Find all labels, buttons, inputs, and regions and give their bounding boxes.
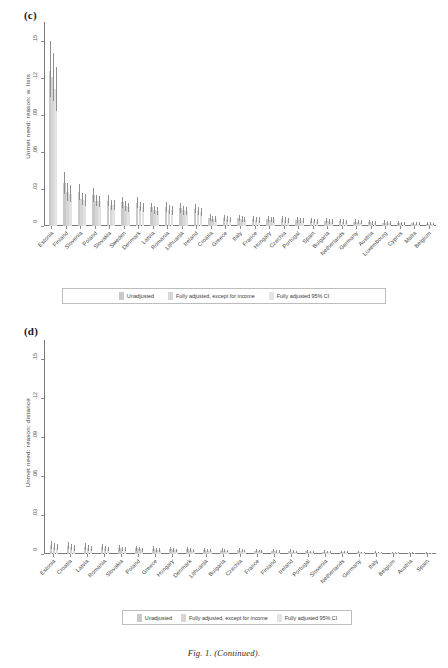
y-tick-label: .09	[32, 109, 38, 117]
x-tick-mark	[182, 226, 183, 229]
bar-group	[368, 22, 377, 226]
bar-group	[281, 22, 290, 226]
bar-group	[324, 22, 333, 226]
y-tick-label: .15	[32, 353, 38, 361]
legend-item-fully-adjusted-ci-d: Fully adjusted 95% CI	[277, 614, 337, 622]
bar-group	[310, 22, 319, 226]
x-axis-label: Finland	[260, 558, 278, 576]
bar-group	[203, 340, 212, 554]
panel-d: (d) Unmet need: reason: distance 0.03.06…	[0, 322, 448, 644]
x-tick-mark	[385, 226, 386, 229]
x-axis-label: Austria	[397, 558, 414, 575]
x-tick-mark	[172, 554, 173, 557]
y-tick-mark	[41, 554, 44, 555]
bar-group	[271, 340, 280, 554]
bar-group	[237, 22, 246, 226]
bar-group	[397, 22, 406, 226]
x-tick-mark	[313, 226, 314, 229]
bar-group	[135, 340, 144, 554]
y-tick-mark	[41, 359, 44, 360]
error-bar	[157, 207, 158, 215]
error-bar	[390, 221, 391, 224]
error-bar	[244, 217, 245, 223]
error-bar	[244, 550, 245, 553]
error-bar	[114, 200, 115, 210]
legend-label-unadjusted-d: Unadjusted	[145, 615, 172, 621]
error-bar	[361, 220, 362, 224]
x-tick-mark	[223, 554, 224, 557]
legend-item-unadjusted: Unadjusted	[119, 292, 154, 300]
x-tick-mark	[196, 226, 197, 229]
y-tick-mark	[41, 189, 44, 190]
error-bar	[143, 203, 144, 212]
error-bar	[57, 544, 58, 550]
error-bar	[259, 217, 260, 222]
bar-group	[194, 22, 203, 226]
error-bar	[79, 184, 80, 200]
y-tick-label: 0	[32, 548, 38, 551]
y-tick-label: 0	[32, 220, 38, 223]
bar-group	[220, 340, 229, 554]
error-bar	[296, 551, 297, 553]
bar-group	[353, 22, 362, 226]
error-bar	[332, 219, 333, 223]
bar-group	[165, 22, 174, 226]
error-bar	[74, 545, 75, 550]
bar-group	[150, 22, 159, 226]
error-bar	[210, 549, 211, 552]
y-tick-mark	[41, 226, 44, 227]
y-tick-label: .12	[32, 72, 38, 80]
bar-group	[254, 340, 263, 554]
error-bar	[381, 552, 382, 553]
x-tick-mark	[342, 554, 343, 557]
legend-label-fully-adjusted-except-income: Fully adjusted, except for income	[176, 293, 255, 299]
panel-c-plot-area	[44, 22, 436, 226]
legend-item-fully-adjusted-ci: Fully adjusted 95% CI	[269, 292, 329, 300]
x-tick-mark	[240, 226, 241, 229]
x-tick-mark	[410, 554, 411, 557]
panel-c-label: (c)	[24, 9, 37, 21]
x-axis-label: Croatia	[55, 558, 72, 575]
legend-swatch-icon-fully-adjusted-ci	[269, 292, 274, 300]
error-bar	[303, 218, 304, 223]
error-bar	[70, 185, 71, 203]
error-bar	[375, 221, 376, 225]
bar-group	[339, 22, 348, 226]
x-axis-label: Spain	[416, 558, 431, 573]
error-bar	[230, 217, 231, 223]
bar-group	[382, 22, 391, 226]
x-tick-mark	[53, 554, 54, 557]
x-axis-label: Bulgaria	[207, 558, 226, 577]
legend-swatch-icon-fully-adjusted-except-income	[168, 292, 173, 300]
y-tick-mark	[41, 41, 44, 42]
y-tick-mark	[41, 398, 44, 399]
bar-group	[295, 22, 304, 226]
error-bar	[142, 548, 143, 552]
error-bar	[64, 172, 65, 195]
x-tick-mark	[284, 226, 285, 229]
x-tick-mark	[189, 554, 190, 557]
x-axis-label: Czechia	[224, 558, 243, 577]
bar-group	[118, 340, 127, 554]
legend-item-unadjusted-d: Unadjusted	[137, 614, 172, 622]
error-bar	[261, 550, 262, 552]
y-tick-mark	[41, 78, 44, 79]
x-tick-mark	[155, 554, 156, 557]
error-bar	[93, 188, 94, 201]
x-tick-mark	[308, 554, 309, 557]
bar-group	[237, 340, 246, 554]
bar-group	[374, 340, 383, 554]
error-bar	[346, 220, 347, 224]
x-tick-mark	[393, 554, 394, 557]
x-tick-mark	[342, 226, 343, 229]
error-bar	[91, 546, 92, 551]
bar-group	[208, 22, 217, 226]
figure-caption: Fig. 1. (Continued).	[0, 648, 448, 658]
legend-item-fully-adjusted-except-income-d: Fully adjusted, except for income	[181, 614, 268, 622]
error-bar	[99, 196, 100, 207]
x-axis-label: Poland	[124, 558, 141, 575]
error-bar	[186, 207, 187, 215]
error-bar	[364, 552, 365, 553]
error-bar	[347, 551, 348, 553]
bar-group	[179, 22, 188, 226]
